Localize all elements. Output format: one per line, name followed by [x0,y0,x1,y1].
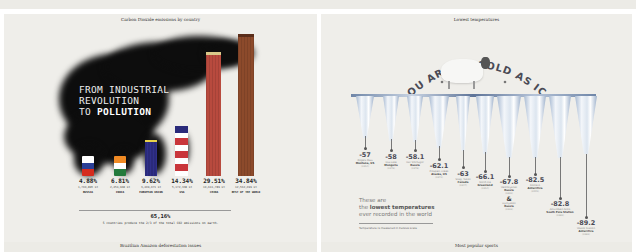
co2-headline: FROM INDUSTRIAL REVOLUTION TO POLLUTION [79,84,169,117]
chimney-rest-of-world [238,34,254,176]
lowest-temperatures-card[interactable]: Lowest temperatures YOU ARE AS COLD AS I… [321,14,632,242]
polar-animal-icon [441,59,483,83]
icicle [476,96,494,154]
co2-note: 5 countries produce the 2/3 of the total… [4,221,317,225]
popular-sports-card[interactable]: Most popular sports [321,242,632,252]
icicle [456,96,470,151]
chimney-eu [145,140,157,176]
icicle [356,96,374,138]
temp-label: -89.2Vostok StationAntarctica(1983) [564,219,608,236]
chimney-usa [175,126,188,176]
icicle [407,96,423,142]
icicle [429,96,449,148]
chimney-russia [82,156,94,176]
amazon-deforestation-card[interactable]: Brazilian Amazon deforestation issues [4,242,317,252]
icicle [575,96,597,154]
chimney-india [114,156,126,176]
co2-total: 65,16% [4,213,317,219]
co2-infographic-card[interactable]: Carbon Dioxide emissions by country FROM… [4,14,317,242]
chimney-china [206,52,221,176]
scale-note: Temperature is measured in Celsius scale [359,226,417,230]
intro-text: These are the lowest temperatures ever r… [359,197,435,217]
svg-text:YOU ARE AS COLD AS ICE: YOU ARE AS COLD AS ICE [321,39,549,99]
temp-label: -82.8Amundsen-ScottSouth Pole Station(19… [538,200,582,217]
icicle [549,96,571,158]
card-title: Most popular sports [321,243,632,248]
temp-label: -82.5Dome AAntarctica(2005) [513,176,557,193]
card-title: Brazilian Amazon deforestation issues [4,243,317,248]
icicle [497,96,521,158]
card-title: Carbon Dioxide emissions by country [4,17,317,22]
intro-divider [359,223,433,224]
card-title: Lowest temperatures [321,17,632,22]
top-strip [0,0,636,9]
icicle [524,96,546,158]
total-divider [79,210,231,211]
icicle [383,96,399,141]
